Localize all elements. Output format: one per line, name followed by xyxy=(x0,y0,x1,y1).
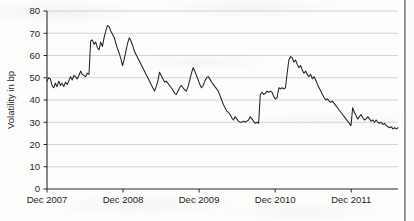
y-tick-label: 50 xyxy=(29,72,40,83)
x-tick-label: Dec 2008 xyxy=(103,194,144,205)
scan-edge-line xyxy=(404,0,406,221)
scan-margin xyxy=(407,0,414,221)
y-tick-label: 10 xyxy=(29,161,40,172)
y-tick-label: 0 xyxy=(35,183,40,194)
y-axis-title: Volatility in bp xyxy=(5,71,16,129)
y-tick-label: 80 xyxy=(29,5,40,16)
x-tick-labels: Dec 2007Dec 2008Dec 2009Dec 2010Dec 2011 xyxy=(27,194,372,205)
chart-page: 01020304050607080 Dec 2007Dec 2008Dec 20… xyxy=(0,0,414,221)
y-tick-label: 30 xyxy=(29,117,40,128)
y-tick-labels: 01020304050607080 xyxy=(29,5,40,194)
y-tick-label: 70 xyxy=(29,28,40,39)
gridlines xyxy=(47,11,398,167)
series-line-volatility xyxy=(47,25,398,128)
volatility-line-chart: 01020304050607080 Dec 2007Dec 2008Dec 20… xyxy=(0,0,414,221)
y-tick-label: 60 xyxy=(29,50,40,61)
x-tick-label: Dec 2009 xyxy=(179,194,220,205)
x-tick-label: Dec 2011 xyxy=(331,194,371,205)
y-tick-label: 40 xyxy=(29,94,40,105)
y-tick-label: 20 xyxy=(29,139,40,150)
x-tick-label: Dec 2007 xyxy=(27,194,68,205)
x-tick-label: Dec 2010 xyxy=(255,194,296,205)
